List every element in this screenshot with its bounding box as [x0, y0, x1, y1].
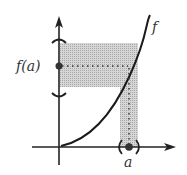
label-f: f [151, 19, 160, 35]
point-f-of-a [56, 63, 63, 70]
point-a [125, 143, 133, 151]
label-f-of-a: f(a) [15, 58, 40, 74]
function-continuity-diagram: f(a) a f [0, 0, 187, 175]
label-a: a [124, 154, 132, 170]
domain-interval-band [120, 43, 138, 147]
